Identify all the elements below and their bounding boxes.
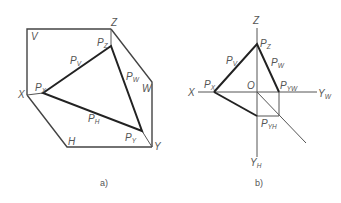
label-pyh: PYH [261,118,277,130]
caption-a: a) [100,178,108,188]
label-py: PY [125,132,137,144]
label-pw: PW [126,71,140,83]
figure-a: V Z X Y H W PZ PV PW PX PH PY a) [17,17,162,188]
label-pz: PZ [97,37,109,49]
label-x: X [17,89,25,100]
origin-label: O [247,80,255,91]
axis-label-yh: YH [250,157,262,169]
y-axis-stub [142,131,152,147]
label-px: PX [204,79,216,91]
label-plane-w: W [142,83,153,94]
axis-label-z: Z [252,15,260,26]
label-y: Y [154,141,162,152]
axis-label-x: X [187,87,195,98]
label-plane-h: H [68,136,76,147]
label-pv: PV [70,55,82,67]
plane-trace-diagram: V Z X Y H W PZ PV PW PX PH PY a) Z X O Y… [0,0,341,203]
label-z: Z [110,17,118,28]
x-axis-stub [27,93,43,95]
trace-ph [214,92,257,116]
label-pw: PW [271,57,285,69]
label-pz: PZ [260,38,272,50]
label-px: PX [35,82,47,94]
label-plane-v: V [31,31,39,42]
label-pyw: PYW [280,80,298,92]
caption-b: b) [255,178,263,188]
label-pv: PV [226,55,238,67]
axis-label-yw: YW [318,88,332,100]
figure-b: Z X O YW YH PZ PV PW PX PYW PYH b) [187,15,332,188]
